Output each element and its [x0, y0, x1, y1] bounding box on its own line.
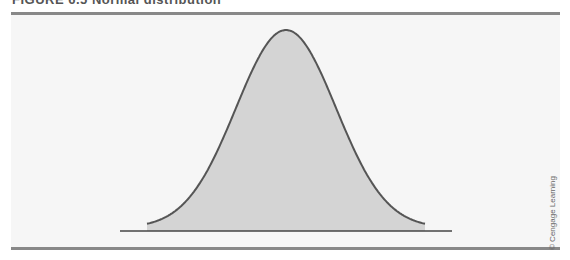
curve-area	[147, 30, 425, 231]
copyright-credit: © Cengage Learning	[548, 176, 557, 250]
normal-curve-plot	[0, 0, 570, 260]
